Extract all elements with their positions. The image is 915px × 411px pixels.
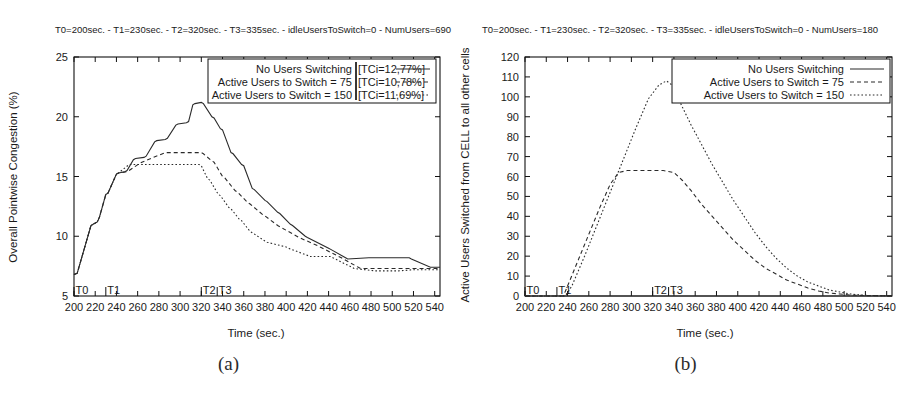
x-tick-label: 460	[341, 301, 359, 313]
x-tick-label: 500	[383, 301, 401, 313]
x-tick-label: 420	[750, 301, 768, 313]
legend-label-1: Active Users to Switch = 75	[218, 76, 352, 88]
y-tick-label: 10	[56, 230, 68, 242]
x-tick-label: 320	[192, 301, 210, 313]
y-tick-label: 20	[507, 250, 519, 262]
y-tick-label: 110	[501, 71, 519, 83]
x-tick-label: 400	[729, 301, 747, 313]
x-tick-label: 440	[771, 301, 789, 313]
x-tick-label: 380	[707, 301, 725, 313]
x-tick-label: 400	[277, 301, 295, 313]
legend-label-0: No Users Switching	[748, 63, 844, 75]
caption-a: (a)	[0, 345, 457, 411]
x-tick-label: 500	[835, 301, 853, 313]
time-marker-label-t2: T2	[203, 284, 216, 296]
x-tick-label: 420	[298, 301, 316, 313]
series-line-0	[74, 102, 440, 274]
legend-label-1: Active Users to Switch = 75	[710, 76, 844, 88]
figure-panels: T0=200sec. - T1=230sec. - T2=320sec. - T…	[0, 0, 915, 345]
x-tick-label: 360	[686, 301, 704, 313]
y-tick-label: 30	[507, 230, 519, 242]
series-line-1	[74, 153, 440, 275]
x-tick-label: 540	[426, 301, 444, 313]
caption-row: (a) (b)	[0, 345, 915, 411]
y-tick-label: 70	[507, 151, 519, 163]
y-tick-label: 20	[56, 111, 68, 123]
time-marker-label-t0: T0	[76, 284, 89, 296]
legend-value-1: [TCi=10,78%]	[358, 76, 425, 88]
y-tick-label: 50	[507, 190, 519, 202]
y-tick-label: 120	[501, 51, 519, 63]
x-tick-label: 300	[622, 301, 640, 313]
legend-value-2: [TCi=11,69%]	[358, 89, 424, 101]
time-marker-label-t3: T3	[219, 284, 232, 296]
y-tick-label: 40	[507, 210, 519, 222]
y-tick-label: 25	[56, 51, 68, 63]
x-tick-label: 460	[792, 301, 810, 313]
x-tick-label: 520	[856, 301, 874, 313]
x-tick-label: 260	[580, 301, 598, 313]
chart-b-title: T0=200sec. - T1=230sec. - T2=320sec. - T…	[482, 24, 878, 35]
time-marker-label-t1: T1	[107, 284, 120, 296]
x-tick-label: 340	[665, 301, 683, 313]
time-marker-label-t2: T2	[654, 284, 667, 296]
x-tick-label: 480	[362, 301, 380, 313]
legend-label-2: Active Users to Switch = 150	[212, 89, 352, 101]
y-tick-label: 90	[507, 111, 519, 123]
x-tick-label: 240	[107, 301, 125, 313]
chart-a-ylabel: Overall Pointwise Congestion (%)	[7, 91, 19, 262]
legend-label-2: Active Users to Switch = 150	[704, 89, 844, 101]
chart-b-plot-area: 0102030405060708090100110120200220240260…	[501, 51, 896, 313]
y-tick-label: 100	[501, 91, 519, 103]
x-tick-label: 200	[65, 301, 83, 313]
x-tick-label: 260	[128, 301, 146, 313]
chart-panel-b: T0=200sec. - T1=230sec. - T2=320sec. - T…	[457, 0, 914, 345]
y-tick-label: 80	[507, 131, 519, 143]
y-tick-label: 15	[56, 171, 68, 183]
x-tick-label: 340	[213, 301, 231, 313]
x-tick-label: 540	[878, 301, 896, 313]
x-tick-label: 520	[404, 301, 422, 313]
y-tick-label: 10	[507, 270, 519, 282]
series-line-2	[525, 81, 892, 296]
x-tick-label: 200	[516, 301, 534, 313]
time-marker-label-t0: T0	[527, 284, 540, 296]
time-marker-label-t3: T3	[670, 284, 683, 296]
chart-a-xlabel: Time (sec.)	[227, 327, 284, 339]
chart-b-ylabel: Active Users Switched from CELL to all o…	[459, 47, 471, 302]
x-tick-label: 280	[601, 301, 619, 313]
chart-a-title: T0=200sec. - T1=230sec. - T2=320sec. - T…	[55, 24, 451, 35]
chart-panel-a: T0=200sec. - T1=230sec. - T2=320sec. - T…	[0, 0, 457, 345]
x-tick-label: 360	[235, 301, 253, 313]
time-marker-label-t1: T1	[558, 284, 571, 296]
caption-b: (b)	[457, 345, 914, 411]
chart-a-plot-area: 5101520252002202402602803003203403603804…	[56, 51, 444, 313]
legend-label-0: No Users Switching	[256, 63, 352, 75]
chart-b-xlabel: Time (sec.)	[676, 327, 733, 339]
series-line-1	[525, 171, 892, 296]
x-tick-label: 220	[86, 301, 104, 313]
x-tick-label: 320	[643, 301, 661, 313]
x-tick-label: 300	[171, 301, 189, 313]
x-tick-label: 280	[150, 301, 168, 313]
x-tick-label: 240	[558, 301, 576, 313]
y-tick-label: 60	[507, 171, 519, 183]
x-tick-label: 220	[537, 301, 555, 313]
x-tick-label: 480	[814, 301, 832, 313]
chart-svg-a: T0=200sec. - T1=230sec. - T2=320sec. - T…	[0, 0, 457, 345]
x-tick-label: 440	[319, 301, 337, 313]
x-tick-label: 380	[256, 301, 274, 313]
chart-svg-b: T0=200sec. - T1=230sec. - T2=320sec. - T…	[457, 0, 914, 345]
